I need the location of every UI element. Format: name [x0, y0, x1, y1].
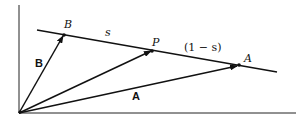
vector-B-arrow: [19, 36, 63, 113]
label-vector-A: A: [132, 91, 140, 102]
label-segment-one-minus-s: (1 − s): [184, 42, 221, 53]
label-point-P: P: [152, 37, 159, 48]
label-point-A: A: [244, 53, 252, 64]
point-A-dot: [237, 63, 241, 67]
label-segment-s: s: [105, 27, 111, 38]
point-B-dot: [62, 33, 66, 37]
origin-dot: [18, 110, 21, 113]
vector-line-diagram: B s P (1 − s) A B A: [0, 0, 302, 122]
diagram-canvas: [0, 0, 302, 122]
vector-A-arrow: [19, 66, 237, 113]
point-P-dot: [150, 49, 154, 53]
label-point-B: B: [64, 19, 72, 30]
label-vector-B: B: [35, 58, 43, 69]
